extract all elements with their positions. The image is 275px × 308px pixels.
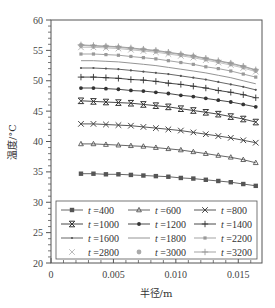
- y-axis-title: 温度/°C: [6, 124, 18, 160]
- x-tick-label: 0.010: [165, 269, 188, 280]
- series-t400: [79, 171, 258, 188]
- x-axis: 00.0050.0100.015: [49, 258, 251, 280]
- series-layer: [78, 42, 259, 188]
- y-tick-label: 50: [33, 75, 43, 86]
- y-tick-label: 20: [33, 258, 43, 269]
- legend-label: t =400: [88, 205, 114, 216]
- legend-label: t =1600: [88, 233, 119, 244]
- y-tick-label: 25: [33, 227, 43, 238]
- x-tick-label: 0.015: [227, 269, 250, 280]
- legend-label: t =2800: [88, 247, 119, 258]
- legend-label: t =1400: [221, 219, 252, 230]
- x-axis-title: 半径/m: [140, 287, 173, 299]
- y-tick-label: 60: [33, 15, 43, 26]
- x-tick-label: 0.005: [102, 269, 125, 280]
- legend-label: t =3200: [221, 247, 252, 258]
- y-tick-label: 55: [33, 45, 43, 56]
- legend-label: t =1000: [88, 219, 119, 230]
- series-t800: [78, 121, 258, 145]
- legend-label: t =3000: [155, 247, 186, 258]
- y-tick-label: 35: [33, 166, 43, 177]
- temperature-radius-chart: 202530354045505560 00.0050.0100.015 t =4…: [0, 0, 275, 308]
- y-axis: 202530354045505560: [33, 15, 51, 269]
- legend-label: t =2200: [221, 233, 252, 244]
- y-tick-label: 40: [33, 136, 43, 147]
- series-t600: [79, 141, 259, 164]
- x-tick-label: 0: [49, 269, 54, 280]
- legend-label: t =1800: [155, 233, 186, 244]
- y-tick-label: 45: [33, 106, 43, 117]
- legend-label: t =1200: [155, 219, 186, 230]
- legend-label: t =800: [221, 205, 247, 216]
- y-tick-label: 30: [33, 197, 43, 208]
- legend-label: t =600: [155, 205, 181, 216]
- legend: t =400t =600t =800t =1000t =1200t =1400t…: [56, 201, 257, 259]
